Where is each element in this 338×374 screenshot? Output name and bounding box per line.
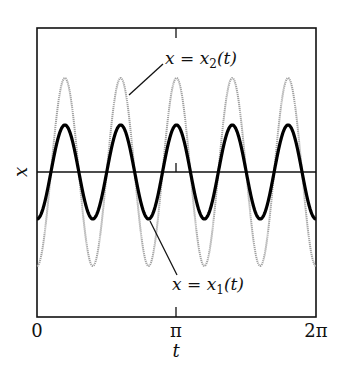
x-tick-label-0: 0	[31, 320, 42, 341]
annotation-x1-label: x = x1(t)	[172, 274, 244, 297]
x-tick-label-pi: π	[170, 320, 182, 341]
x-tick-label-2pi: 2π	[304, 320, 327, 341]
y-axis-label: x	[10, 167, 31, 177]
x-axis-label: t	[172, 340, 180, 361]
annotation-x2-label: x = x2(t)	[165, 48, 237, 71]
chart: x = x2(t) x = x1(t) 0 π 2π t x	[0, 0, 338, 374]
annotation-x1-leader	[150, 221, 177, 275]
annotation-x2-leader	[129, 64, 163, 95]
